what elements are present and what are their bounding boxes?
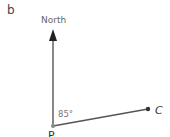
angle-label: 85° [58, 109, 73, 119]
north-arrow-icon [49, 29, 57, 41]
point-p-label: P [48, 129, 55, 137]
point-p-dot [51, 124, 55, 128]
point-c-label: C [155, 104, 163, 117]
bearing-diagram [0, 0, 170, 137]
point-c-dot [146, 107, 150, 111]
